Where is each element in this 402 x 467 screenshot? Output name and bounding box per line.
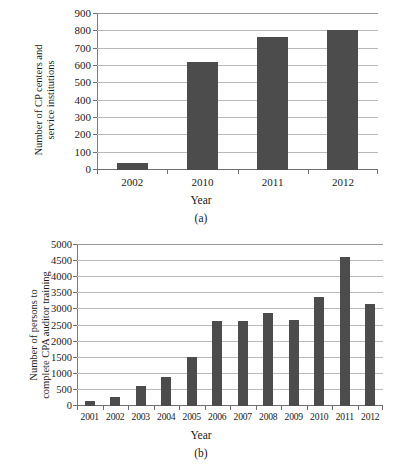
chart-a-x-axis-title: Year xyxy=(0,194,402,206)
y-axis-tick-label: 2500 xyxy=(51,319,72,330)
chart-b-x-tick-labels: 2001200220032004200520062007200820092010… xyxy=(77,411,383,423)
y-axis-tick-label: 700 xyxy=(75,42,92,53)
x-axis-tick xyxy=(256,406,257,410)
y-axis-tick-label: 500 xyxy=(75,77,92,88)
x-axis-tick-label: 2007 xyxy=(230,411,256,423)
x-axis-tick-label: 2004 xyxy=(154,411,180,423)
x-axis-tick xyxy=(230,406,231,410)
y-axis-tick-label: 4500 xyxy=(51,255,72,266)
x-axis-tick xyxy=(281,406,282,410)
bar xyxy=(161,377,171,406)
x-axis-tick-label: 2012 xyxy=(358,411,384,423)
chart-a-y-axis-title: Number of CP centers and service institu… xyxy=(33,15,57,185)
chart-a-x-tick-labels: 2002201020112012 xyxy=(97,176,378,188)
bar xyxy=(117,163,148,170)
bar-slot xyxy=(154,245,180,406)
x-axis-tick xyxy=(128,406,129,410)
bar xyxy=(263,313,273,406)
y-axis-tick-label: 800 xyxy=(75,25,92,36)
bar-slot xyxy=(167,14,237,170)
y-axis-tick-label: 500 xyxy=(56,383,72,394)
x-axis-tick-label: 2010 xyxy=(167,176,237,188)
x-axis-tick-label: 2002 xyxy=(103,411,129,423)
x-axis-tick xyxy=(332,406,333,410)
x-axis-tick xyxy=(238,170,239,174)
x-axis-tick-label: 2002 xyxy=(97,176,167,188)
y-axis-tick-label: 600 xyxy=(75,60,92,71)
bar-slot xyxy=(281,245,307,406)
chart-a-y-axis-title-line2: service institutions xyxy=(45,15,57,185)
x-axis-tick xyxy=(307,406,308,410)
bar-slot xyxy=(332,245,358,406)
bar-slot xyxy=(256,245,282,406)
y-axis-tick-label: 900 xyxy=(75,8,92,19)
x-axis-tick-label: 2001 xyxy=(77,411,103,423)
x-axis-tick xyxy=(377,170,378,174)
bar-slot xyxy=(307,245,333,406)
x-axis-tick xyxy=(179,406,180,410)
y-axis-tick-label: 1500 xyxy=(51,351,72,362)
x-axis-tick xyxy=(154,406,155,410)
figure-a: Number of CP centers and service institu… xyxy=(0,0,402,233)
chart-b-y-axis-title-line1: Number of persons to xyxy=(28,245,40,425)
y-axis-tick-label: 1000 xyxy=(51,367,72,378)
y-axis-tick-label: 100 xyxy=(75,146,92,157)
y-axis-tick-label: 200 xyxy=(75,129,92,140)
x-axis-tick-label: 2012 xyxy=(308,176,378,188)
bar-slot xyxy=(179,245,205,406)
bar-slot xyxy=(128,245,154,406)
x-axis-tick-label: 2011 xyxy=(238,176,308,188)
y-axis-tick-label: 3500 xyxy=(51,287,72,298)
x-axis-tick xyxy=(205,406,206,410)
x-axis-tick-label: 2006 xyxy=(205,411,231,423)
y-axis-tick-label: 400 xyxy=(75,94,92,105)
bar xyxy=(187,62,218,170)
x-axis-tick-label: 2009 xyxy=(281,411,307,423)
chart-b-y-axis-title: Number of persons to complete CPA audito… xyxy=(28,245,52,425)
chart-a-plot-area: 0100200300400500600700800900 xyxy=(97,14,378,170)
bar-slot xyxy=(230,245,256,406)
x-axis-tick-label: 2008 xyxy=(256,411,282,423)
y-axis-tick-label: 5000 xyxy=(51,239,72,250)
y-axis-tick-label: 300 xyxy=(75,112,92,123)
y-axis-tick-label: 3000 xyxy=(51,303,72,314)
x-axis-tick xyxy=(77,406,78,410)
bar-slot xyxy=(77,245,103,406)
bar xyxy=(257,37,288,170)
x-axis-tick-label: 2011 xyxy=(332,411,358,423)
bar-slot xyxy=(308,14,378,170)
bar-slot xyxy=(205,245,231,406)
x-axis-tick-label: 2003 xyxy=(128,411,154,423)
bar xyxy=(327,30,358,170)
bar-slot xyxy=(97,14,167,170)
bar xyxy=(340,257,350,406)
bar-slot xyxy=(358,245,384,406)
x-axis-tick-label: 2010 xyxy=(307,411,333,423)
chart-b-plot-area: 0500100015002000250030003500400045005000 xyxy=(77,245,383,406)
bar xyxy=(238,321,248,406)
bar xyxy=(136,386,146,406)
x-axis-tick xyxy=(308,170,309,174)
figure-b: Number of persons to complete CPA audito… xyxy=(0,233,402,467)
x-axis-tick xyxy=(103,406,104,410)
bar xyxy=(212,321,222,406)
chart-b-x-axis-title: Year xyxy=(0,429,402,441)
x-axis-tick xyxy=(382,406,383,410)
bar xyxy=(365,304,375,406)
x-axis-tick-label: 2005 xyxy=(179,411,205,423)
x-axis-tick xyxy=(97,170,98,174)
x-axis-tick xyxy=(358,406,359,410)
bar-slot xyxy=(103,245,129,406)
chart-b-bar-series xyxy=(77,245,383,406)
y-axis-tick-label: 0 xyxy=(86,163,92,174)
y-axis-tick-label: 0 xyxy=(67,399,72,410)
chart-a-bar-series xyxy=(97,14,378,170)
bar xyxy=(85,401,95,406)
bar-slot xyxy=(238,14,308,170)
bar xyxy=(187,357,197,406)
y-axis-tick-label: 2000 xyxy=(51,335,72,346)
bar xyxy=(110,397,120,406)
y-axis-tick-label: 4000 xyxy=(51,271,72,282)
chart-b-caption: (b) xyxy=(0,447,402,459)
chart-a-y-axis-title-line1: Number of CP centers and xyxy=(33,15,45,185)
